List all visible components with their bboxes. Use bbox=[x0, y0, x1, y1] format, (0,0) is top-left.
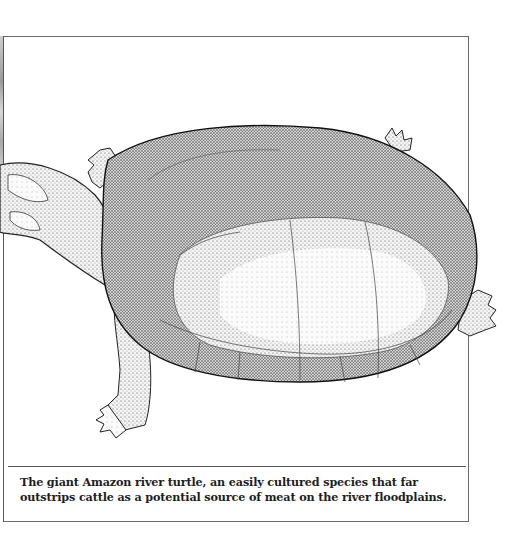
caption-divider bbox=[8, 466, 466, 467]
figure-caption: The giant Amazon river turtle, an easily… bbox=[20, 475, 460, 505]
turtle-illustration bbox=[0, 60, 518, 460]
